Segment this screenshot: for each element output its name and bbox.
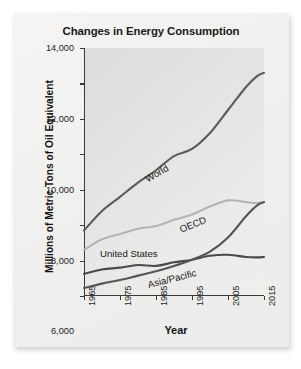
y-tick-label: 12,000 <box>46 114 74 124</box>
series-line-world <box>84 73 264 231</box>
y-tick-label: 10,000 <box>46 185 74 195</box>
y-tick-label: 14,000 <box>46 43 74 53</box>
x-tick: 1985 <box>156 296 157 300</box>
x-tick: 1965 <box>84 296 85 300</box>
y-tick-label: 6,000 <box>51 326 74 336</box>
x-tick: 2005 <box>228 296 229 300</box>
x-axis-title: Year <box>71 324 281 336</box>
x-tick: 2015 <box>264 296 265 300</box>
chart-card: Changes in Energy Consumption Millions o… <box>13 13 289 347</box>
chart-card-surface: Changes in Energy Consumption Millions o… <box>13 13 289 347</box>
plot-area: 02,0004,0006,0008,00010,00012,00014,000 … <box>84 48 264 296</box>
series-label-united-states: United States <box>100 248 158 259</box>
series-line-oecd <box>84 200 264 250</box>
x-tick: 1975 <box>120 296 121 300</box>
chart-title: Changes in Energy Consumption <box>13 25 289 37</box>
y-tick-label: 8,000 <box>51 256 74 266</box>
y-axis-title: Millions of Metric Tons of Oil Equivalen… <box>44 67 55 287</box>
x-tick-label: 2015 <box>267 286 277 306</box>
x-tick: 1995 <box>192 296 193 300</box>
screenshot-root: Changes in Energy Consumption Millions o… <box>0 0 301 369</box>
